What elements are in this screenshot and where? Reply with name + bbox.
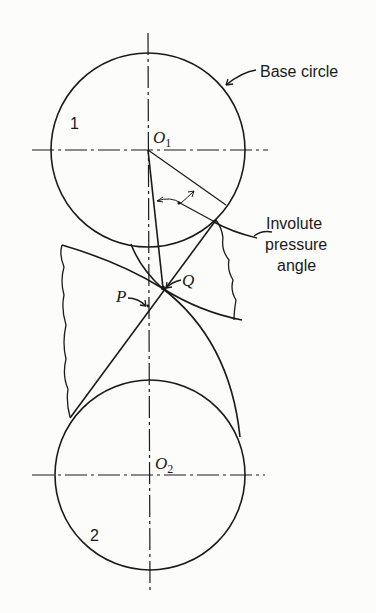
pressure-angle-label-line1: Involute (266, 215, 322, 232)
point-q-label: Q (182, 271, 194, 290)
base-circle-pointer (226, 70, 256, 85)
center-o2-label: O2 (155, 454, 173, 476)
tooth-2-break-outline (216, 220, 236, 320)
point-p-label: P (115, 287, 126, 306)
pressure-angle-label-line2: pressure (265, 236, 327, 253)
point-q-dot (161, 286, 165, 290)
pressure-angle-reference-line (180, 203, 215, 222)
point-p-dot (147, 305, 150, 308)
tooth-1-break-outline (61, 245, 70, 417)
addendum-arc (214, 222, 257, 238)
pressure-angle-label-line3: angle (277, 257, 316, 274)
base-circle-label: Base circle (260, 63, 338, 80)
involute-gear-diagram: Base circle 1 2 O1 O2 P Q Involute press… (0, 0, 376, 613)
involute-tooth-1 (62, 245, 242, 320)
radius-o1-to-q (148, 150, 163, 288)
gear-1-label: 1 (70, 115, 79, 132)
radius-o1-to-tangent (148, 150, 226, 205)
p-pointer (128, 298, 146, 306)
gear-2-label: 2 (90, 527, 99, 544)
center-o1-label: O1 (153, 128, 171, 150)
angle-dot (177, 201, 180, 204)
